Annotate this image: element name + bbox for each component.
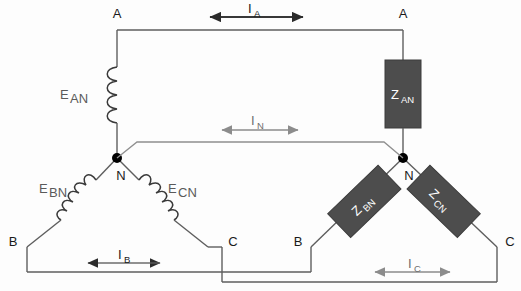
svg-text:Z: Z [391,87,399,102]
svg-text:B: B [124,254,130,265]
svg-text:I: I [408,256,412,271]
svg-text:E: E [60,87,69,102]
emf-cn-label: E CN [168,181,197,200]
svg-text:I: I [118,247,122,262]
source-wire-b-lower [27,220,61,247]
source-terminal-b-label: B [9,234,18,249]
svg-text:AN: AN [70,91,88,106]
svg-text:A: A [254,8,261,19]
emf-an-label: E AN [60,87,88,106]
svg-text:BN: BN [49,185,67,200]
svg-text:N: N [257,120,264,131]
source-phase-a-branch [107,30,117,158]
source-terminal-c-label: C [228,234,237,249]
coil-ean [107,67,117,123]
current-c-label: I C [408,256,421,274]
load-terminal-b-label: B [294,234,303,249]
load-neutral-label: N [404,168,413,183]
load-terminal-c-label: C [505,234,514,249]
current-n-label: I N [251,113,264,131]
current-b-label: I B [118,247,130,265]
source-phase-b-branch [27,158,117,272]
circuit-diagram: A B C N A B C N E AN E BN E CN Z AN Z BN [0,0,521,291]
line-n-wire [117,142,403,158]
current-a-label: I A [248,1,261,19]
svg-text:E: E [39,181,48,196]
svg-text:C: C [414,263,421,274]
source-terminal-a-label: A [113,6,122,21]
svg-text:I: I [251,113,255,128]
svg-text:E: E [168,181,177,196]
emf-bn-label: E BN [39,181,67,200]
source-wire-c-lower [174,220,208,247]
circuit-canvas: A B C N A B C N E AN E BN E CN Z AN Z BN [0,0,521,291]
svg-text:CN: CN [178,185,197,200]
svg-text:AN: AN [401,94,414,105]
load-terminal-a-label: A [399,6,408,21]
svg-text:I: I [248,1,252,16]
source-neutral-label: N [116,168,125,183]
